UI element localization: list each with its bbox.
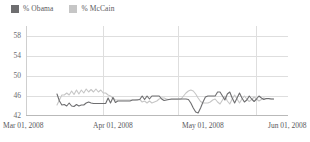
x-tick-label: Apr 01, 2008 [93, 121, 133, 130]
y-tick-label: 54 [14, 52, 22, 60]
x-axis-labels: Mar 01, 2008Apr 01, 2008May 01, 2008Jun … [0, 121, 310, 135]
chart-legend: % Obama % McCain [11, 3, 115, 15]
legend-swatch-mccain [69, 5, 77, 13]
y-tick-label: 42 [14, 112, 22, 120]
legend-label-mccain: % McCain [81, 5, 114, 13]
y-tick-label: 50 [14, 72, 22, 80]
series-line-obama [57, 92, 274, 113]
x-tick-label: May 01, 2008 [182, 121, 224, 130]
poll-trend-chart: % Obama % McCain 4246505458 Mar 01, 2008… [0, 0, 310, 142]
legend-entry-mccain[interactable]: % McCain [69, 5, 114, 13]
legend-label-obama: % Obama [23, 5, 53, 13]
vertical-gridlines [27, 26, 257, 116]
y-tick-label: 58 [14, 32, 22, 40]
plot-area [26, 26, 288, 116]
y-tick-label: 46 [14, 92, 22, 100]
horizontal-gridlines [26, 37, 288, 117]
x-tick-label: Mar 01, 2008 [3, 121, 44, 130]
x-tick-label: Jun 01, 2008 [268, 121, 307, 130]
plot-svg [26, 26, 288, 116]
